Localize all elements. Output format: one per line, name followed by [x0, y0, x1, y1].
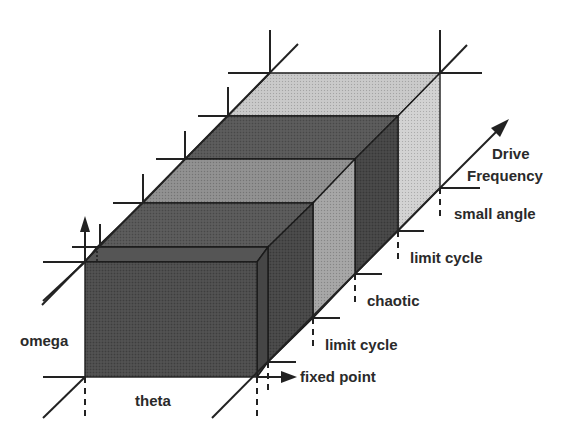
label-chaotic: chaotic	[367, 292, 420, 309]
front-bottom-left-diagonal	[43, 377, 85, 418]
drive-label-line2: Frequency	[467, 167, 544, 184]
theta-label: theta	[135, 392, 171, 409]
omega-label: omega	[20, 332, 69, 349]
label-limit-cycle-lower: limit cycle	[325, 336, 398, 353]
region-fixed-point	[85, 247, 268, 377]
phase-space-diagram: omega theta Drive Frequency small angle …	[0, 0, 584, 447]
theta-axis-arrow	[257, 371, 297, 383]
corner-crosshair-top-right	[440, 30, 482, 73]
label-fixed-point: fixed point	[300, 368, 376, 385]
label-small-angle: small angle	[454, 205, 536, 222]
label-limit-cycle-upper: limit cycle	[410, 249, 483, 266]
front-top-left-diagonal	[43, 262, 85, 301]
omega-axis-arrow	[80, 216, 90, 262]
drive-label-line1: Drive	[492, 145, 530, 162]
